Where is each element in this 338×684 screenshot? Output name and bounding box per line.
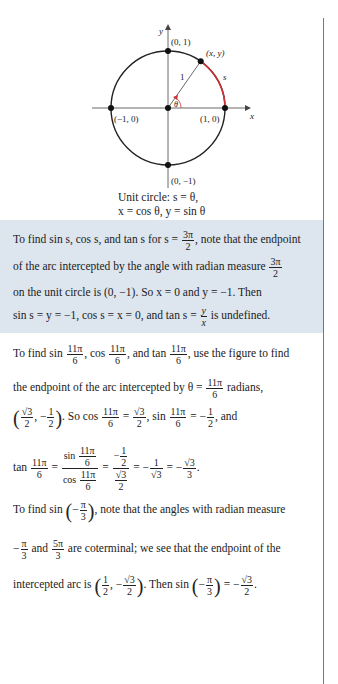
denominator: 6 (109, 355, 126, 366)
fraction: 11π6 (170, 343, 187, 366)
numerator: √3 (123, 574, 136, 586)
text: and (31, 542, 48, 554)
text: To find sin (13, 503, 63, 515)
box-line-3: on the unit circle is (0, −1). So x = 0 … (13, 286, 262, 298)
text: = − (224, 578, 240, 590)
caption-line-1: Unit circle: s = θ, (118, 190, 205, 204)
numerator: 11π (80, 469, 97, 481)
numerator: π (21, 538, 28, 550)
fraction: 1√3 (150, 457, 163, 480)
denominator: 2 (182, 241, 194, 252)
text: To find sin (13, 347, 63, 359)
numerator: √3 (183, 457, 196, 469)
denominator: 2 (207, 418, 214, 429)
denominator: 2 (21, 418, 34, 429)
denominator: 3 (206, 586, 213, 597)
denominator: 2 (241, 586, 254, 597)
unit-circle-figure: y x (0, 1) (0, −1) (−1, 0) (1, 0) (x, y)… (80, 18, 260, 193)
fraction: 5π3 (52, 538, 64, 561)
text: the endpoint of the arc intercepted by θ… (13, 381, 203, 393)
numerator: 11π (31, 457, 48, 469)
fraction: 11π6 (206, 377, 223, 400)
numerator: sin 11π6 (62, 445, 99, 469)
numerator: 11π (206, 377, 223, 389)
numerator: 3π (269, 256, 281, 268)
label-xy-point: (x, y) (206, 48, 224, 58)
numerator: √3 (115, 469, 128, 481)
numerator: √3 (241, 574, 254, 586)
numerator: π (206, 574, 213, 586)
label-arc-s: s (223, 72, 227, 82)
numerator: 11π (67, 343, 84, 355)
ex2-line-4: tan 11π6 = sin 11π6cos 11π6 = −12√32 = −… (13, 445, 200, 492)
text: . Then sin (144, 578, 189, 590)
denominator: 3 (52, 550, 64, 561)
box-line-4: sin s = y = −1, cos s = x = 0, and tan s… (13, 305, 270, 328)
label-bottom-point: (0, −1) (171, 176, 196, 186)
ex2-line-2: the endpoint of the arc intercepted by θ… (13, 377, 263, 400)
text: To find sin s, cos s, and tan s for s = (13, 233, 178, 245)
fraction: yx (201, 305, 207, 328)
text: are coterminal; we see that the endpoint… (68, 542, 281, 554)
denominator: 3 (21, 550, 28, 561)
numerator: 11π (102, 406, 119, 418)
caption-line-2: x = cos θ, y = sin θ (118, 204, 205, 218)
numerator: 1 (47, 406, 54, 418)
fraction: 12 (207, 406, 214, 429)
text: , cos (84, 347, 105, 359)
fraction: 3π2 (269, 256, 281, 279)
fraction: π3 (206, 574, 213, 597)
text: , and tan (127, 347, 166, 359)
box-line-2: of the arc intercepted by the angle with… (13, 256, 283, 279)
y-axis-label: y (158, 26, 163, 36)
numerator: 5π (52, 538, 64, 550)
denominator: 2 (133, 418, 146, 429)
text: tan (13, 461, 27, 473)
numerator: 11π (170, 343, 187, 355)
denominator: 6 (79, 457, 96, 468)
label-theta: θ (174, 100, 178, 109)
ex2-line-1: To find sin 11π6, cos 11π6, and tan 11π6… (13, 343, 289, 366)
denominator: 2 (120, 457, 127, 468)
denominator: 6 (80, 481, 97, 492)
fraction: 11π6 (31, 457, 48, 480)
text: of the arc intercepted by the angle with… (13, 260, 266, 272)
fraction: √32 (123, 574, 136, 597)
fraction: √32 (133, 406, 146, 429)
denominator: cos 11π6 (62, 469, 99, 492)
fraction: √33 (183, 457, 196, 480)
numerator: π (80, 499, 87, 511)
denominator: 6 (67, 355, 84, 366)
text: . So cos (62, 410, 98, 422)
ex3-line-2: −π3 and 5π3 are coterminal; we see that … (13, 538, 281, 561)
numerator: 11π (109, 343, 126, 355)
box-line-1: To find sin s, cos s, and tan s for s = … (13, 229, 301, 252)
fraction: π3 (21, 538, 28, 561)
denominator: √32 (113, 469, 130, 492)
text: = − (166, 461, 182, 473)
numerator: 1 (120, 445, 127, 457)
fraction: 11π6 (170, 406, 187, 429)
denominator: 2 (47, 418, 54, 429)
text: is undefined. (211, 309, 270, 321)
denominator: 2 (102, 586, 109, 597)
page-margin-rule (323, 18, 324, 684)
text: radians, (227, 381, 263, 393)
fraction: 11π6 (67, 343, 84, 366)
denominator: 6 (102, 418, 119, 429)
denominator: √3 (150, 469, 163, 480)
fraction: √32 (241, 574, 254, 597)
denominator: 6 (170, 418, 187, 429)
fraction: 11π6 (102, 406, 119, 429)
numerator: y (201, 305, 207, 317)
numerator: 3π (182, 229, 194, 241)
fraction: π3 (80, 499, 87, 522)
numerator: 1 (102, 574, 109, 586)
denominator: 6 (170, 355, 187, 366)
text: , note that the angles with radian measu… (94, 503, 285, 515)
text: intercepted arc is (13, 578, 92, 590)
compound-fraction: sin 11π6cos 11π6 (62, 445, 99, 492)
denominator: 6 (206, 389, 223, 400)
numerator: 11π (79, 445, 96, 457)
fraction: √32 (21, 406, 34, 429)
